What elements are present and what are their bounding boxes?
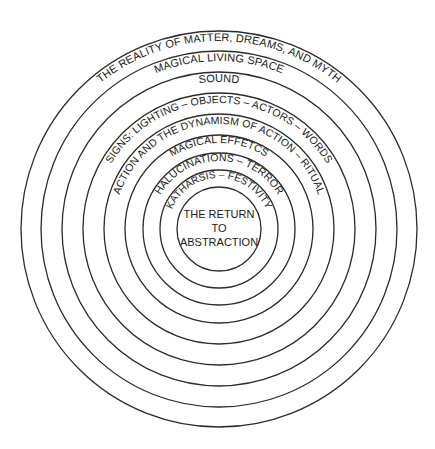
center-label-line-1: THE RETURN — [184, 208, 255, 220]
layer-label-sound: SOUND — [198, 72, 240, 85]
center-label-line-3: ABSTRACTION — [180, 236, 258, 248]
layer-labels: THE REALITY OF MATTER, DREAMS, AND MYTH … — [94, 31, 344, 211]
center-label: THE RETURN TO ABSTRACTION — [180, 208, 258, 248]
center-label-line-2: TO — [211, 222, 227, 234]
concentric-layers-diagram: THE REALITY OF MATTER, DREAMS, AND MYTH … — [0, 0, 435, 449]
